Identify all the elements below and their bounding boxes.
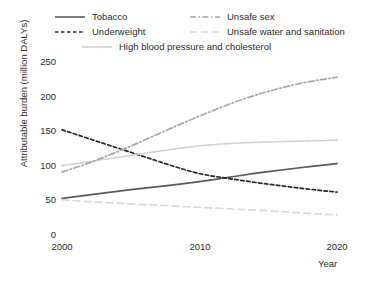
series-line-unsafe-sex [62,77,337,172]
data-lines [0,0,374,283]
series-line-underweight [62,130,337,192]
plot-area: 250 200 150 100 50 0 2000 2010 2020 Attr… [0,0,374,283]
chart-figure: Tobacco Underweight High blood pressure … [0,0,374,283]
series-line-unsafe-water-and-sanitation [62,200,337,215]
series-line-tobacco [62,164,337,199]
